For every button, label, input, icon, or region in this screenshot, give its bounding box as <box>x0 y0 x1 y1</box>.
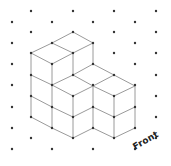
grid-dot <box>113 52 115 54</box>
cube-edge <box>114 75 135 86</box>
grid-dot <box>92 127 94 129</box>
grid-dot <box>113 137 115 139</box>
grid-dot <box>134 42 136 44</box>
cube-edge <box>93 107 114 117</box>
cube-edge <box>114 86 135 96</box>
grid-dot <box>134 63 136 65</box>
grid-dot <box>11 21 13 23</box>
cube-edge <box>73 86 93 96</box>
cube-edge <box>52 107 73 117</box>
cube-edge <box>114 128 135 138</box>
cube-edge <box>52 32 73 43</box>
cube-edge <box>52 43 73 53</box>
grid-dot <box>72 10 74 12</box>
cube-edge <box>31 43 52 53</box>
cube-edge <box>93 128 114 138</box>
cube-edge <box>93 64 114 75</box>
grid-dot <box>113 116 115 118</box>
grid-dot <box>72 137 74 139</box>
grid-dot <box>51 148 53 150</box>
grid-dot <box>113 10 115 12</box>
cube-edge <box>114 107 135 117</box>
grid-dot <box>155 52 157 54</box>
cube-edge <box>52 53 73 64</box>
cube-edge <box>31 75 52 85</box>
grid-dot <box>92 148 94 150</box>
cube-edge <box>52 85 73 96</box>
grid-dot <box>72 31 74 33</box>
cube-edge <box>93 86 114 96</box>
grid-dot <box>155 95 157 97</box>
cube-edge <box>73 64 93 75</box>
grid-dot <box>72 116 74 118</box>
grid-dot <box>30 10 32 12</box>
grid-dot <box>113 95 115 97</box>
grid-dot <box>51 21 53 23</box>
isometric-dot-grid <box>11 10 157 150</box>
cube-edge <box>31 53 52 64</box>
cube-edge <box>73 128 93 138</box>
grid-dot <box>92 106 94 108</box>
grid-dot <box>155 74 157 76</box>
cube-edge <box>31 117 52 128</box>
grid-dot <box>11 127 13 129</box>
grid-dot <box>11 106 13 108</box>
grid-dot <box>72 52 74 54</box>
grid-dot <box>30 137 32 139</box>
grid-dot <box>51 106 53 108</box>
grid-dot <box>30 31 32 33</box>
grid-dot <box>30 74 32 76</box>
grid-dot <box>134 106 136 108</box>
grid-dot <box>155 10 157 12</box>
cube-edge <box>73 107 93 117</box>
grid-dot <box>155 31 157 33</box>
grid-dot <box>113 31 115 33</box>
grid-dot <box>92 42 94 44</box>
cube-edges <box>31 32 135 138</box>
grid-dot <box>11 42 13 44</box>
grid-dot <box>134 21 136 23</box>
cube-edge <box>52 75 73 85</box>
cube-edge <box>52 128 73 138</box>
cube-edge <box>93 75 114 86</box>
grid-dot <box>51 42 53 44</box>
grid-dot <box>51 63 53 65</box>
cube-edge <box>73 32 93 43</box>
grid-dot <box>11 148 13 150</box>
grid-dot <box>92 84 94 86</box>
grid-dot <box>113 74 115 76</box>
grid-dot <box>11 84 13 86</box>
grid-dot <box>72 95 74 97</box>
cube-edge <box>73 43 93 53</box>
grid-dot <box>30 52 32 54</box>
grid-dot <box>11 63 13 65</box>
grid-dot <box>72 74 74 76</box>
grid-dot <box>30 116 32 118</box>
grid-dot <box>92 21 94 23</box>
grid-dot <box>134 127 136 129</box>
grid-dot <box>134 84 136 86</box>
grid-dot <box>51 84 53 86</box>
grid-dot <box>92 63 94 65</box>
cube-edge <box>31 96 52 107</box>
grid-dot <box>51 127 53 129</box>
grid-dot <box>30 95 32 97</box>
grid-dot <box>155 116 157 118</box>
cube-edge <box>73 75 93 86</box>
